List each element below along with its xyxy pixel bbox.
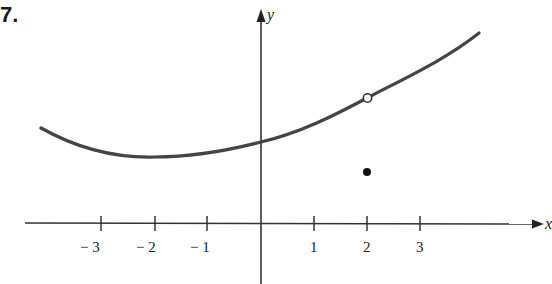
x-tick-label: − 2 — [136, 239, 156, 255]
x-axis-label: x — [544, 215, 552, 232]
x-tick-label: 3 — [416, 239, 424, 255]
x-tick-label: − 1 — [190, 239, 210, 255]
x-tick-label: − 3 — [80, 239, 100, 255]
y-axis-label: y — [265, 6, 275, 24]
function-curve — [41, 33, 479, 157]
x-axis-arrow-icon — [532, 220, 544, 229]
function-graph: x y − 3 − 2 − 1 1 2 3 — [0, 0, 552, 284]
filled-point — [363, 168, 371, 176]
x-axis — [25, 223, 538, 224]
y-axis-arrow-icon — [257, 9, 266, 22]
open-circle-hole — [363, 94, 371, 102]
x-tick-label: 1 — [310, 239, 318, 255]
x-tick-label: 2 — [363, 239, 371, 255]
